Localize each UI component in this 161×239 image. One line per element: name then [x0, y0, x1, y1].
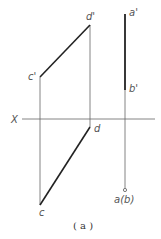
x-axis-label: X [10, 114, 19, 125]
label-ab: a(b) [114, 194, 134, 205]
label-c-prime: c' [28, 71, 36, 82]
projection-diagram: X d' a' c' b' d c a(b) ( a ) [0, 0, 161, 239]
segment-c-prime-d-prime [40, 25, 90, 77]
label-d: d [94, 123, 101, 134]
segment-c-d [40, 127, 90, 205]
label-c: c [39, 207, 45, 218]
point-ab [123, 188, 126, 191]
figure-caption: ( a ) [73, 220, 93, 231]
label-b-prime: b' [129, 83, 138, 94]
label-a-prime: a' [129, 7, 138, 18]
label-d-prime: d' [86, 11, 95, 22]
